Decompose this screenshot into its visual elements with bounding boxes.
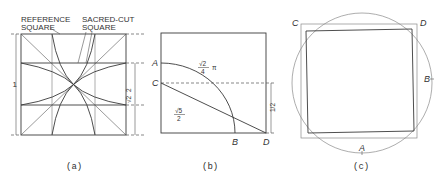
point-d: D (263, 137, 270, 147)
dim-label-half: 1/2 (269, 103, 276, 112)
point-d: D (420, 18, 427, 28)
arc-label: √2 4 π (198, 60, 217, 75)
dim-label-1: 1 (13, 80, 18, 89)
arc-num: √2 (199, 60, 207, 67)
label-reference-2: SQUARE (21, 23, 55, 32)
dim-den: 2 (125, 88, 132, 92)
leader-sacred-1 (78, 32, 86, 63)
caption-c: (c) (353, 162, 369, 172)
point-c: C (152, 78, 159, 88)
arc-a-b (161, 63, 235, 133)
panel-c: C D B A (c) (292, 13, 434, 172)
dim-half-text: 1/2 (269, 103, 276, 112)
label-sacred-cut-2: SQUARE (82, 23, 116, 32)
sacred-cut-figure: 1 √2 2 REFERENCE SQUARE SACRED-CUT SQUAR… (0, 0, 445, 181)
point-c: C (292, 18, 299, 28)
point-a: A (151, 58, 158, 68)
point-b: B (424, 74, 430, 84)
inner-square (306, 29, 414, 133)
panel-a: 1 √2 2 REFERENCE SQUARE SACRED-CUT SQUAR… (11, 15, 145, 172)
diag-den: 2 (177, 115, 181, 122)
caption-b: (b) (202, 162, 218, 172)
outer-square (301, 24, 417, 138)
arc-den: 4 (201, 68, 205, 75)
diag-label: √5 2 (174, 107, 185, 122)
point-a: A (358, 143, 365, 153)
panel-b: 1/2 A C B D √2 4 π √5 2 (b) (151, 33, 276, 172)
caption-a: (a) (66, 162, 82, 172)
dim-num: √2 (125, 95, 132, 103)
diag-num: √5 (175, 107, 183, 114)
point-b: B (232, 137, 238, 147)
arc-pi: π (212, 64, 217, 71)
